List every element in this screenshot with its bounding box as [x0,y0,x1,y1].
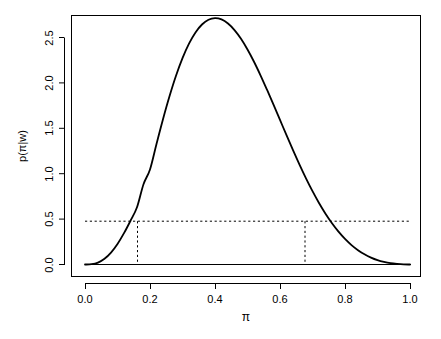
plot-frame [72,16,421,277]
x-axis [85,284,411,290]
x-axis-title: π [242,311,250,323]
y-tick-label-1: 0.5 [44,211,55,226]
x-tick-label-4: 0.8 [337,294,352,305]
y-tick-label-3: 1.5 [44,121,55,136]
x-tick-label-2: 0.4 [207,294,222,305]
y-tick-label-2: 1.0 [44,166,55,181]
plot-canvas [0,0,441,339]
x-tick-label-5: 1.0 [402,294,417,305]
x-tick-label-1: 0.2 [142,294,157,305]
figure-panel: 0.0 0.2 0.4 0.6 0.8 1.0 0.0 0.5 1.0 1.5 … [0,0,441,339]
density-curve [85,18,410,264]
x-tick-label-0: 0.0 [77,294,92,305]
y-axis-title: p(π|w) [17,130,28,162]
x-tick-label-3: 0.6 [272,294,287,305]
y-tick-label-4: 2.0 [44,75,55,90]
y-tick-label-5: 2.5 [44,30,55,45]
y-axis [59,38,65,266]
y-tick-label-0: 0.0 [44,257,55,272]
